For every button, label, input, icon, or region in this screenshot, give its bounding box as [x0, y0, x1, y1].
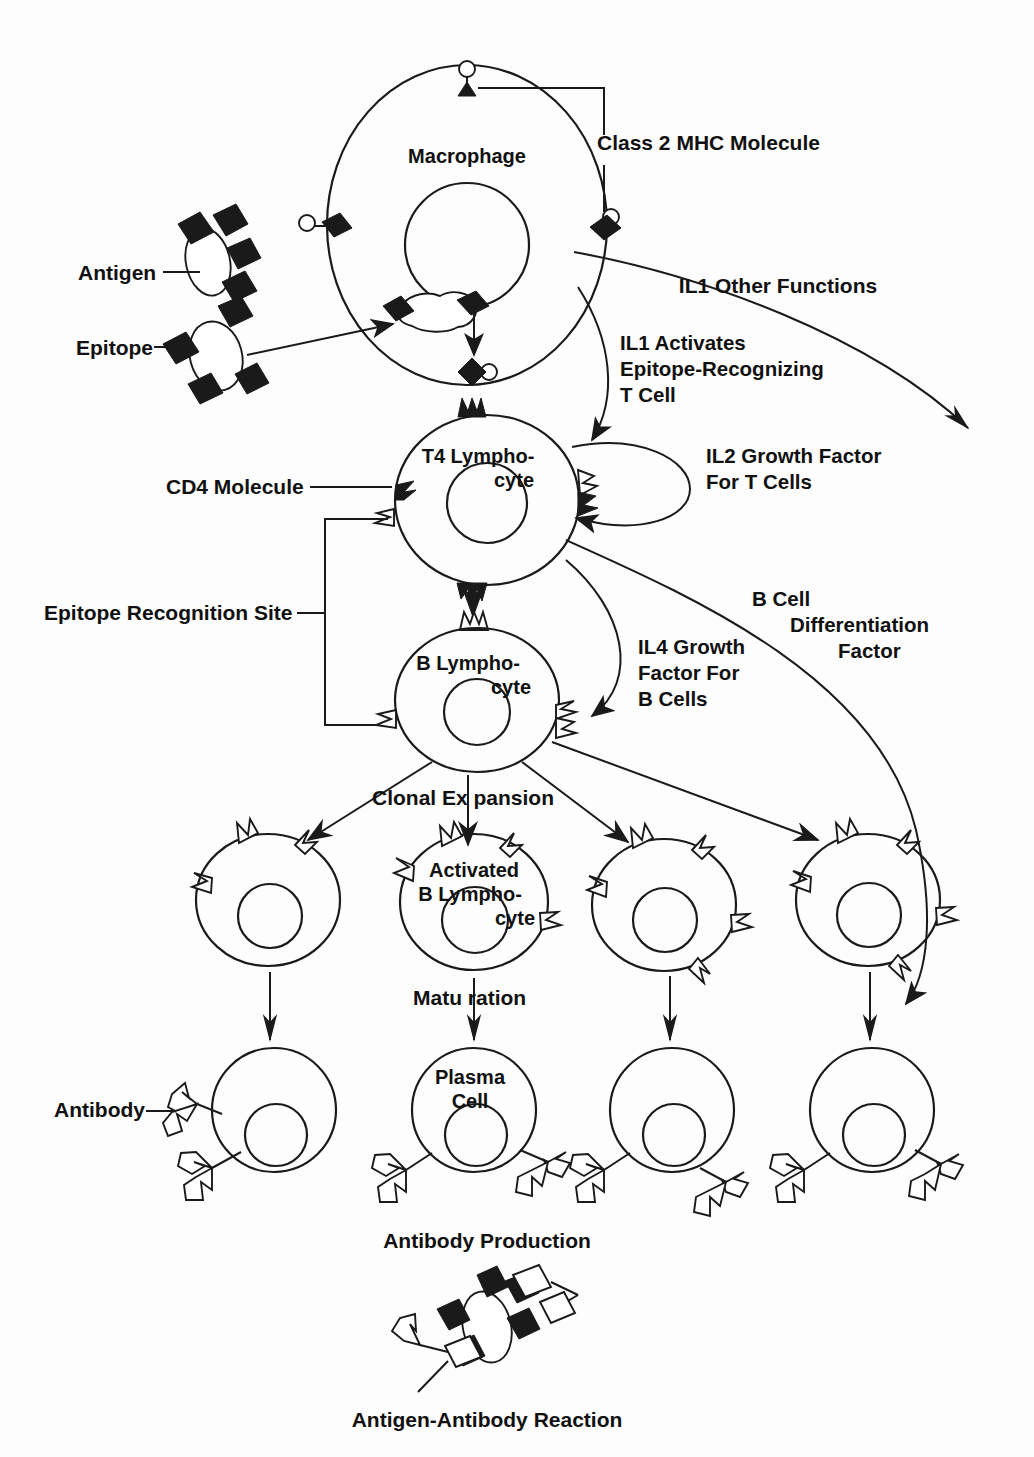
- il4-label-l1: IL4 Growth: [638, 635, 745, 658]
- b-lymph-label-l1: B Lympho-: [416, 652, 520, 674]
- antibody-label: Antibody: [54, 1098, 145, 1121]
- bcdf-label-l2: Differentiation: [790, 613, 929, 636]
- epitope-recognition-label: Epitope Recognition Site: [44, 601, 293, 624]
- clonal-expansion-label: Clonal Ex pansion: [372, 786, 554, 809]
- diagram-canvas: Macrophage Class 2 MHC Molecule: [0, 0, 1034, 1457]
- plasma2-label-l1: Plasma: [435, 1066, 506, 1088]
- b-lymph-label-l2: cyte: [491, 676, 531, 698]
- antigen-label: Antigen: [78, 261, 156, 284]
- maturation-label: Matu ration: [413, 986, 526, 1009]
- clone2-label-l1: Activated: [429, 859, 519, 881]
- il1-activates-l3: T Cell: [620, 383, 676, 406]
- il4-label-l2: Factor For: [638, 661, 739, 684]
- clone2-label-l2: B Lympho-: [418, 883, 522, 905]
- il1-activates-l2: Epitope-Recognizing: [620, 357, 824, 380]
- il1-activates-l1: IL1 Activates: [620, 331, 746, 354]
- immune-response-diagram: Macrophage Class 2 MHC Molecule: [0, 0, 1034, 1457]
- il4-label-l3: B Cells: [638, 687, 708, 710]
- class2-mhc-label: Class 2 MHC Molecule: [597, 131, 820, 154]
- cd4-label: CD4 Molecule: [166, 475, 304, 498]
- t4-label-l2: cyte: [494, 469, 534, 491]
- macrophage-label: Macrophage: [408, 145, 526, 167]
- plasma2-label-l2: Cell: [452, 1090, 489, 1112]
- epitope-label: Epitope: [76, 336, 153, 359]
- il2-label-l2: For T Cells: [706, 470, 812, 493]
- bcdf-label-l1: B Cell: [752, 587, 810, 610]
- il2-label-l1: IL2 Growth Factor: [706, 444, 881, 467]
- bcdf-label-l3: Factor: [838, 639, 901, 662]
- il1-other-functions-label: IL1 Other Functions: [679, 274, 877, 297]
- t4-label-l1: T4 Lympho-: [422, 445, 535, 467]
- antibody-production-label: Antibody Production: [383, 1229, 591, 1252]
- clone2-label-l3: cyte: [495, 907, 535, 929]
- antigen-antibody-reaction-label: Antigen-Antibody Reaction: [352, 1408, 623, 1431]
